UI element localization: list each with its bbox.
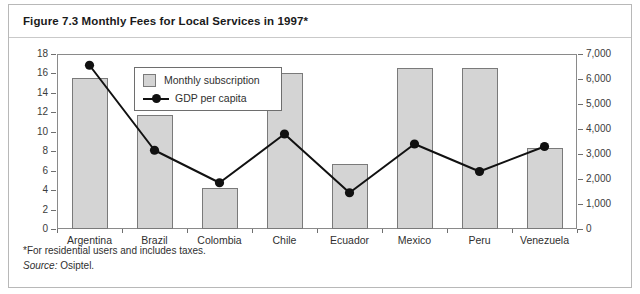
- x-tick: [317, 229, 318, 233]
- y-tick-right: [578, 154, 583, 155]
- x-axis-label: Peru: [468, 234, 490, 246]
- y-tick-label-right: 4,000: [586, 124, 611, 134]
- y-tick-left: [51, 190, 56, 191]
- legend-label-bar: Monthly subscription: [164, 74, 260, 86]
- source-label: Source:: [23, 260, 57, 271]
- y-tick-label-right: 1,000: [586, 199, 611, 209]
- source-line: Source: Osiptel.: [23, 260, 94, 271]
- x-tick: [512, 229, 513, 233]
- y-tick-left: [51, 229, 56, 230]
- x-axis-label: Ecuador: [330, 234, 369, 246]
- y-tick-label-left: 14: [37, 88, 48, 98]
- x-tick: [382, 229, 383, 233]
- x-tick: [252, 229, 253, 233]
- y-tick-label-right: 5,000: [586, 99, 611, 109]
- y-tick-label-right: 7,000: [586, 49, 611, 59]
- y-tick-left: [51, 93, 56, 94]
- bar: [202, 188, 238, 229]
- bar: [332, 164, 368, 229]
- y-tick-label-right: 0: [586, 224, 592, 234]
- x-tick: [57, 229, 58, 233]
- x-tick: [577, 229, 578, 233]
- bar: [137, 115, 173, 229]
- y-tick-right: [578, 79, 583, 80]
- y-tick-label-left: 6: [42, 166, 48, 176]
- page-title: Figure 7.3 Monthly Fees for Local Servic…: [23, 15, 308, 27]
- y-tick-right: [578, 204, 583, 205]
- x-tick: [447, 229, 448, 233]
- y-tick-label-left: 18: [37, 49, 48, 59]
- y-tick-label-right: 2,000: [586, 174, 611, 184]
- x-axis-label: Venezuela: [520, 234, 569, 246]
- bar: [462, 68, 498, 229]
- bar: [397, 68, 433, 229]
- figure-container: Figure 7.3 Monthly Fees for Local Servic…: [8, 4, 632, 288]
- x-tick: [187, 229, 188, 233]
- legend-label-line: GDP per capita: [175, 92, 247, 104]
- y-tick-label-left: 12: [37, 107, 48, 117]
- x-axis-label: Mexico: [398, 234, 431, 246]
- y-tick-left: [51, 73, 56, 74]
- bar: [72, 78, 108, 229]
- y-tick-right: [578, 54, 583, 55]
- title-divider: [9, 37, 631, 38]
- y-tick-label-left: 16: [37, 68, 48, 78]
- y-tick-label-left: 4: [42, 185, 48, 195]
- legend-item-bar: Monthly subscription: [143, 72, 260, 88]
- chart-legend: Monthly subscription GDP per capita: [134, 67, 282, 111]
- y-tick-left: [51, 132, 56, 133]
- y-tick-left: [51, 210, 56, 211]
- x-axis-label: Chile: [273, 234, 297, 246]
- y-tick-right: [578, 129, 583, 130]
- y-tick-label-left: 2: [42, 205, 48, 215]
- y-tick-right: [578, 179, 583, 180]
- y-tick-label-left: 0: [42, 224, 48, 234]
- source-value: Osiptel.: [60, 260, 94, 271]
- y-tick-label-right: 3,000: [586, 149, 611, 159]
- y-tick-left: [51, 171, 56, 172]
- y-tick-left: [51, 151, 56, 152]
- y-tick-label-left: 8: [42, 146, 48, 156]
- legend-item-line: GDP per capita: [143, 90, 247, 106]
- legend-swatch-icon: [143, 74, 156, 87]
- y-tick-right: [578, 229, 583, 230]
- y-tick-left: [51, 112, 56, 113]
- x-tick: [122, 229, 123, 233]
- bar: [527, 148, 563, 229]
- y-tick-right: [578, 104, 583, 105]
- footnote-text: *For residential users and includes taxe…: [23, 245, 206, 256]
- y-tick-label-right: 6,000: [586, 74, 611, 84]
- legend-line-marker-icon: [143, 92, 169, 105]
- y-tick-left: [51, 54, 56, 55]
- y-tick-label-left: 10: [37, 127, 48, 137]
